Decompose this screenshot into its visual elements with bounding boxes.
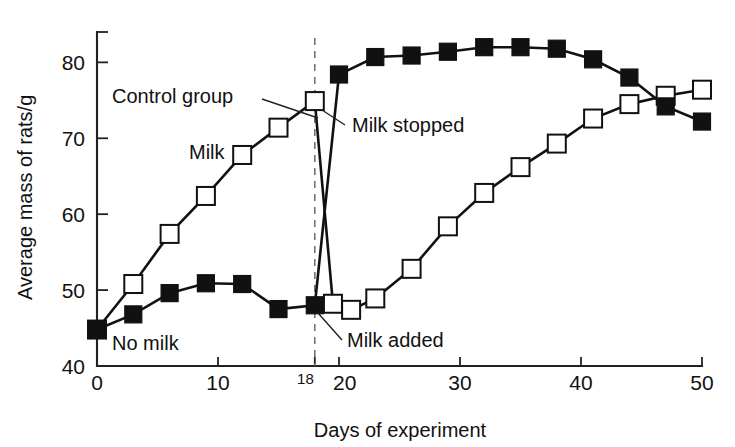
data-point-open-square: [548, 135, 566, 153]
annotation-milk-stopped: Milk stopped: [352, 114, 464, 136]
x-axis-tick-labels: 0101820304050: [91, 370, 714, 394]
y-axis-title: Average mass of rats/g: [14, 95, 36, 300]
data-point-open-square: [439, 217, 457, 235]
data-point-open-square: [475, 184, 493, 202]
data-point-filled-square: [403, 47, 420, 64]
data-point-open-square: [620, 95, 638, 113]
data-point-filled-square: [476, 39, 493, 56]
data-point-filled-square: [367, 49, 384, 66]
y-tick-label: 80: [62, 51, 85, 74]
x-tick-label: 40: [569, 371, 592, 394]
rat-growth-line-chart: 4050607080 Average mass of rats/g 010182…: [0, 0, 735, 447]
data-point-filled-square: [197, 275, 214, 292]
data-point-open-square: [342, 301, 360, 319]
data-point-open-square: [324, 295, 342, 313]
annotation-milk: Milk: [189, 141, 226, 163]
y-tick-label: 50: [62, 279, 85, 302]
x-tick-label: 10: [206, 371, 229, 394]
chart-container: 4050607080 Average mass of rats/g 010182…: [0, 0, 735, 447]
data-point-filled-square: [331, 66, 348, 83]
data-point-open-square: [270, 119, 288, 137]
data-point-filled-square: [234, 276, 251, 293]
annotation-milk-added: Milk added: [347, 329, 444, 351]
x-axis-ticks: [218, 357, 702, 366]
data-point-open-square: [512, 158, 530, 176]
y-tick-label: 60: [62, 203, 85, 226]
data-point-filled-square: [125, 306, 142, 323]
data-point-open-square: [306, 92, 324, 110]
data-point-filled-square: [161, 285, 178, 302]
x-tick-label: 18: [297, 370, 314, 387]
data-point-filled-square: [89, 321, 106, 338]
y-axis-ticks: [97, 32, 108, 290]
data-point-filled-square: [585, 51, 602, 68]
data-point-filled-square: [306, 297, 323, 314]
x-axis-group: 0101820304050 Days of experiment: [91, 357, 714, 441]
data-point-filled-square: [512, 39, 529, 56]
data-point-open-square: [197, 187, 215, 205]
data-point-open-square: [584, 110, 602, 128]
data-point-filled-square: [621, 69, 638, 86]
annotation-no-milk: No milk: [112, 332, 180, 354]
data-point-open-square: [161, 225, 179, 243]
data-point-filled-square: [694, 113, 711, 130]
data-point-open-square: [693, 81, 711, 99]
annotation-control-group: Control group: [112, 85, 233, 107]
data-point-open-square: [403, 260, 421, 278]
annotation-leader-milk-added: [318, 313, 342, 340]
data-point-filled-square: [439, 43, 456, 60]
data-point-filled-square: [270, 301, 287, 318]
data-point-open-square: [233, 146, 251, 164]
data-point-open-square: [124, 275, 142, 293]
series-markers-group: [88, 39, 711, 339]
x-axis-title: Days of experiment: [314, 419, 487, 441]
x-tick-label: 50: [690, 371, 713, 394]
x-tick-label: 20: [333, 371, 356, 394]
y-tick-label: 40: [62, 355, 85, 378]
x-tick-label: 0: [91, 371, 103, 394]
data-point-filled-square: [548, 40, 565, 57]
data-point-filled-square: [657, 98, 674, 115]
x-tick-label: 30: [448, 371, 471, 394]
y-tick-label: 70: [62, 127, 85, 150]
data-point-open-square: [366, 289, 384, 307]
y-axis-tick-labels: 4050607080: [62, 51, 85, 378]
